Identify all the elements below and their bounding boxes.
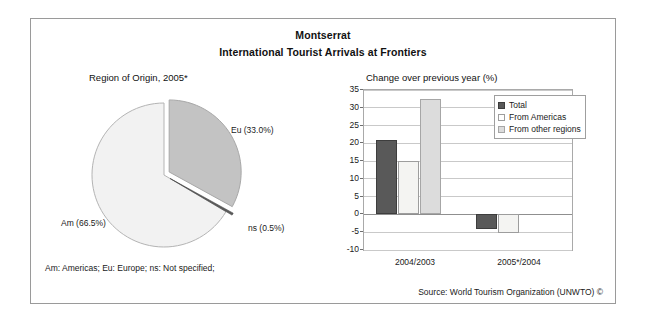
gridline — [364, 90, 572, 91]
pie-chart: Eu (33.0%) Am (66.5%) ns (0.5%) — [41, 87, 331, 267]
figure-footnote: Am: Americas; Eu: Europe; ns: Not specif… — [45, 263, 215, 273]
y-axis-tick-label: -10 — [347, 245, 359, 253]
bar-from-americas — [498, 214, 519, 233]
bar-chart: 35302520151050-5-10 2004/20032005*/2004 … — [331, 85, 611, 285]
legend-item-from-americas: From Americas — [498, 111, 581, 123]
figure-source: Source: World Tourism Organization (UNWT… — [418, 287, 603, 297]
legend-swatch-total — [498, 102, 505, 109]
y-axis-tick-label: 35 — [350, 85, 359, 93]
y-axis-tick-label: 0 — [354, 209, 359, 217]
bar-from-other-regions — [420, 99, 441, 215]
bar-total — [476, 214, 497, 228]
pie-chart-svg — [41, 87, 331, 267]
bar-chart-legend: Total From Americas From other regions — [494, 95, 586, 139]
bar-from-americas — [398, 161, 419, 214]
pie-label-eu: Eu (33.0%) — [231, 125, 274, 135]
y-axis-tick-label: 10 — [350, 174, 359, 182]
figure-title: Montserrat — [31, 29, 615, 41]
legend-item-total: Total — [498, 99, 581, 111]
y-axis-tick-label: 20 — [350, 138, 359, 146]
legend-label-from-other-regions: From other regions — [509, 124, 581, 134]
legend-swatch-from-other-regions — [498, 126, 505, 133]
y-axis-tick-label: 30 — [350, 103, 359, 111]
legend-swatch-from-americas — [498, 114, 505, 121]
bar-chart-y-axis: 35302520151050-5-10 — [331, 85, 359, 255]
figure-frame: Montserrat International Tourist Arrival… — [30, 18, 616, 304]
x-axis-tick-label: 2004/2003 — [363, 257, 467, 267]
gridline — [364, 232, 572, 233]
y-axis-tick-label: 25 — [350, 121, 359, 129]
gridline — [364, 250, 572, 251]
legend-label-from-americas: From Americas — [509, 112, 566, 122]
pie-chart-caption: Region of Origin, 2005* — [89, 72, 188, 83]
y-axis-tick-label: -5 — [351, 227, 359, 235]
bar-total — [376, 140, 397, 214]
y-axis-tick-label: 15 — [350, 156, 359, 164]
legend-item-from-other-regions: From other regions — [498, 123, 581, 135]
figure-subtitle: International Tourist Arrivals at Fronti… — [31, 46, 615, 58]
pie-label-am: Am (66.5%) — [61, 218, 106, 228]
legend-label-total: Total — [509, 100, 527, 110]
pie-label-ns: ns (0.5%) — [248, 223, 284, 233]
y-axis-tick-label: 5 — [354, 192, 359, 200]
bar-chart-caption: Change over previous year (%) — [366, 72, 497, 83]
x-axis-tick-label: 2005*/2004 — [467, 257, 571, 267]
